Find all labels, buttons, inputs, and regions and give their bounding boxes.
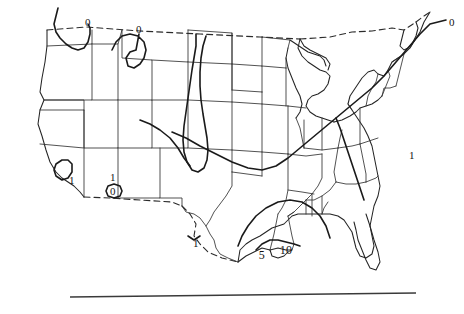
west-coast: [38, 30, 84, 197]
coastline-and-state-borders: [38, 12, 430, 270]
contour-label-0-pacific-northwest: 0: [85, 17, 91, 28]
contour-label-0-northern-rockies: 0: [136, 24, 142, 35]
figure-canvas: 0 0 0 1 1 0 1 5 10 1: [0, 0, 464, 314]
contour-label-5-louisiana-gulf-coast: 5: [259, 250, 265, 261]
east-coast: [238, 12, 430, 262]
bottom-horizontal-rule: [70, 293, 416, 297]
national-border-dashed: [47, 12, 430, 262]
florida-peninsula: [354, 214, 380, 270]
contour-label-1-arizona-north: 1: [110, 172, 116, 183]
contour-label-1-south-texas: 1: [193, 238, 199, 249]
great-lakes: [298, 39, 334, 122]
state-lines-midwest: [262, 37, 366, 216]
us-contour-map: [0, 0, 464, 314]
contour-gulf-arc-5: [238, 200, 330, 246]
contour-label-10-mississippi-gulf-coast: 10: [280, 245, 293, 256]
contour-label-0-northern-maine: 0: [449, 17, 455, 28]
contour-transcontinental: [172, 20, 446, 170]
contour-main-plains-trough: [183, 34, 208, 172]
contour-0-northern-rockies: [112, 34, 146, 68]
contour-label-1-southern-california: 1: [69, 175, 75, 186]
contour-label-1-carolina-coast: 1: [409, 150, 415, 161]
contour-label-0-arizona-closed: 0: [110, 186, 116, 197]
state-lines-plains: [182, 30, 262, 262]
state-lines-east: [348, 40, 415, 182]
